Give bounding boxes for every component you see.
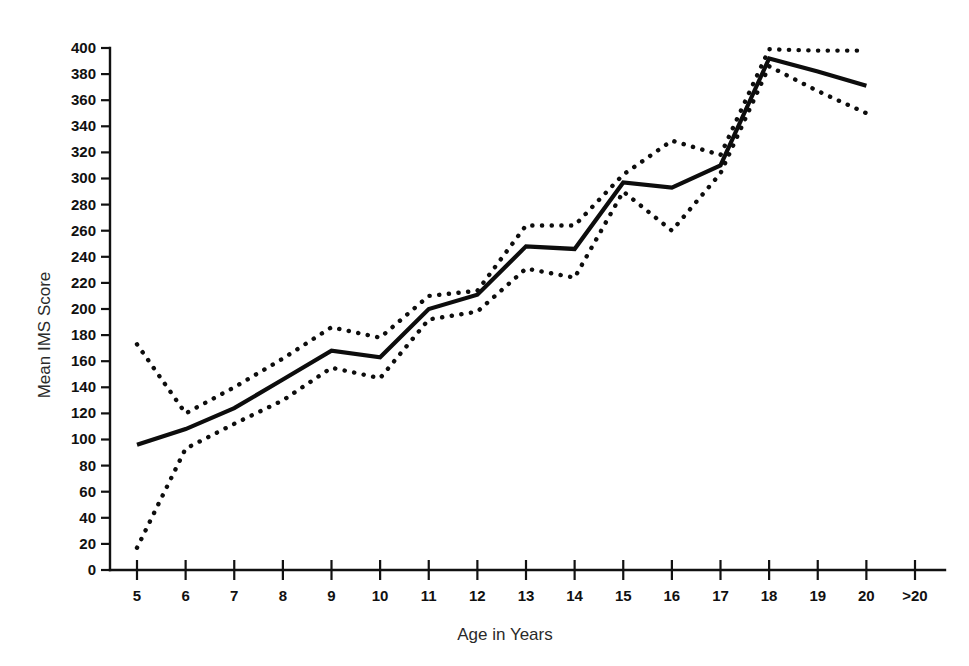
x-tick-label: 20	[858, 587, 875, 604]
x-axis-ticks: 567891011121314151617181920>20	[133, 560, 928, 604]
x-tick-label: 18	[761, 587, 778, 604]
y-axis-ticks: 0204060801001201401601802002202402602803…	[71, 39, 110, 578]
x-tick-label: 16	[664, 587, 681, 604]
x-tick-label: >20	[902, 587, 927, 604]
chart-container: Mean IMS Score Age in Years 020406080100…	[0, 0, 969, 666]
x-tick-label: 12	[469, 587, 486, 604]
x-tick-label: 11	[421, 587, 437, 604]
series-layer	[137, 49, 866, 548]
y-tick-label: 340	[71, 117, 96, 134]
y-tick-label: 380	[71, 65, 96, 82]
y-tick-label: 200	[71, 300, 96, 317]
x-tick-label: 14	[566, 587, 583, 604]
y-tick-label: 40	[79, 509, 96, 526]
y-tick-label: 300	[71, 169, 96, 186]
y-tick-label: 240	[71, 248, 96, 265]
y-tick-label: 60	[79, 483, 96, 500]
y-tick-label: 80	[79, 457, 96, 474]
x-tick-label: 7	[230, 587, 238, 604]
x-tick-label: 19	[809, 587, 826, 604]
y-tick-label: 400	[71, 39, 96, 56]
y-tick-label: 100	[71, 430, 96, 447]
y-tick-label: 0	[88, 561, 96, 578]
y-tick-label: 320	[71, 143, 96, 160]
x-tick-label: 10	[372, 587, 389, 604]
y-tick-label: 280	[71, 196, 96, 213]
series-line-dotted	[137, 66, 866, 548]
x-tick-label: 17	[712, 587, 729, 604]
y-tick-label: 120	[71, 404, 96, 421]
x-tick-label: 5	[133, 587, 141, 604]
y-tick-label: 220	[71, 274, 96, 291]
y-tick-label: 180	[71, 326, 96, 343]
line-chart: Mean IMS Score Age in Years 020406080100…	[0, 0, 969, 666]
y-tick-label: 140	[71, 378, 96, 395]
series-line-dotted	[137, 49, 866, 413]
y-tick-label: 260	[71, 222, 96, 239]
y-tick-label: 360	[71, 91, 96, 108]
x-tick-label: 8	[279, 587, 287, 604]
series-line-solid	[137, 58, 866, 444]
x-tick-label: 9	[327, 587, 335, 604]
y-tick-label: 20	[79, 535, 96, 552]
y-axis-title: Mean IMS Score	[35, 272, 54, 399]
x-tick-label: 13	[518, 587, 535, 604]
y-tick-label: 160	[71, 352, 96, 369]
x-tick-label: 15	[615, 587, 632, 604]
x-axis-title: Age in Years	[457, 625, 552, 644]
x-tick-label: 6	[181, 587, 189, 604]
